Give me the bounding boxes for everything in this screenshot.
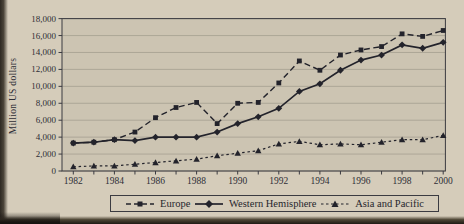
y-tick-label: 12,000: [31, 64, 56, 74]
legend-item-western-hemisphere: Western Hemisphere: [194, 198, 317, 209]
y-tick-label: 14,000: [31, 47, 56, 57]
x-tick-label: 2000: [434, 176, 453, 186]
chart-figure: 02,0004,0006,0008,00010,00012,00014,0001…: [0, 0, 464, 224]
asia-pacific-series-marker-icon: [320, 199, 350, 209]
scan-edge-bottom: [0, 216, 464, 224]
legend-label-western-hemisphere: Western Hemisphere: [229, 198, 317, 209]
western-hemisphere-series-marker-icon: [194, 199, 224, 209]
y-tick-label: 0: [52, 166, 57, 176]
x-tick-label: 1994: [310, 176, 329, 186]
legend-item-europe: Europe: [125, 198, 190, 209]
x-tick-label: 1998: [393, 176, 412, 186]
marker-square: [359, 48, 364, 53]
y-tick-label: 2,000: [36, 149, 57, 159]
y-tick-label: 8,000: [36, 98, 57, 108]
marker-square: [297, 59, 302, 64]
x-tick-label: 1988: [187, 176, 206, 186]
y-tick-label: 16,000: [31, 31, 56, 41]
y-tick-label: 6,000: [36, 115, 57, 125]
y-axis-title: Million US dollars: [8, 58, 18, 135]
y-tick-label: 10,000: [31, 81, 56, 91]
legend-label-europe: Europe: [160, 198, 190, 209]
marker-square: [338, 53, 343, 58]
marker-square: [174, 105, 179, 110]
marker-square: [194, 100, 199, 105]
x-tick-label: 1992: [269, 176, 288, 186]
marker-square: [215, 121, 220, 126]
marker-square: [153, 115, 158, 120]
marker-square: [276, 81, 281, 86]
x-tick-label: 1986: [146, 176, 165, 186]
legend-item-asia-pacific: Asia and Pacific: [320, 198, 424, 209]
y-tick-label: 18,000: [31, 14, 56, 24]
line-chart: 02,0004,0006,0008,00010,00012,00014,0001…: [0, 0, 464, 224]
marker-square: [441, 28, 446, 33]
x-tick-label: 1990: [228, 176, 247, 186]
legend-label-asia-pacific: Asia and Pacific: [355, 198, 424, 209]
y-tick-label: 4,000: [36, 132, 57, 142]
x-tick-label: 1982: [64, 176, 83, 186]
marker-square: [318, 68, 323, 73]
legend: Europe Western Hemisphere Asia and Pacif…: [110, 195, 439, 212]
scan-edge-corner: [0, 212, 60, 224]
europe-series-marker-icon: [125, 199, 155, 209]
marker-square: [420, 34, 425, 39]
marker-square: [133, 130, 138, 135]
marker-square: [400, 31, 405, 36]
x-tick-label: 1984: [105, 176, 124, 186]
plot-area: [62, 19, 445, 171]
scan-edge-left: [0, 0, 8, 224]
marker-square: [256, 100, 261, 105]
marker-square: [379, 44, 384, 49]
x-tick-label: 1996: [352, 176, 371, 186]
marker-square: [235, 101, 240, 106]
